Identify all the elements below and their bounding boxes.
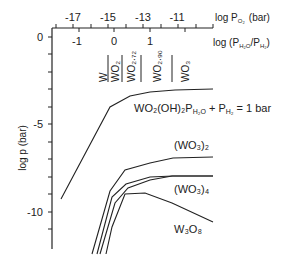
second-tick-label: 0 (111, 35, 117, 47)
phase-label-w: W (98, 72, 109, 82)
phase-label-wo2: WO₂ (110, 61, 121, 82)
annotation-wo2oh2: WO₂(OH)₂PH₂O + PH₂ = 1 bar (134, 102, 271, 115)
second-tick-label: 1 (147, 35, 153, 47)
phase-label-wo272: WO₂.₇₂ (126, 51, 137, 82)
chart: -17 -15 -13 -11 log PO₂(bar) -1 0 1 log … (0, 0, 292, 269)
top-tick-label: -15 (100, 11, 116, 23)
second-axis-title: log (PH₂O/PH₂) (213, 37, 270, 49)
phase-label-wo290: WO₂.₉₀ (152, 50, 163, 82)
second-axis-labels: -1 0 1 (72, 35, 153, 47)
top-tick-label: -13 (135, 11, 151, 23)
phase-labels: W WO₂ WO₂.₇₂ WO₂.₉₀ WO₃ (98, 50, 191, 82)
label-wo3-4: (WO₃)₄ (174, 183, 210, 195)
label-w3o8: W₃O₈ (174, 223, 202, 235)
top-axis-labels: -17 -15 -13 -11 (65, 11, 185, 23)
y-tick-label: -10 (27, 206, 43, 218)
y-tick-label: -5 (33, 118, 43, 130)
y-axis-title: log p (bar) (17, 125, 28, 171)
phase-label-wo3: WO₃ (180, 61, 191, 82)
top-tick-label: -11 (169, 11, 184, 23)
top-axis-title: log PO₂(bar) (215, 12, 270, 24)
second-tick-label: -1 (72, 35, 82, 47)
y-tick-label: 0 (37, 31, 43, 43)
label-wo3-2: (WO₃)₂ (174, 139, 209, 151)
y-axis-labels: 0 -5 -10 (27, 31, 43, 218)
top-tick-label: -17 (65, 11, 81, 23)
